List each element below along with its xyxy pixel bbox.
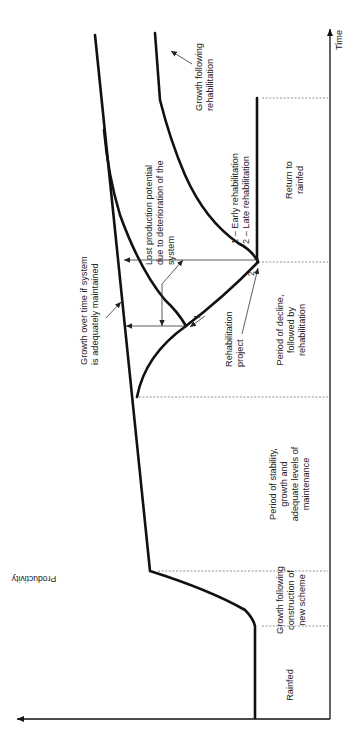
svg-text:due to deterioration of the: due to deterioration of the	[155, 160, 165, 265]
svg-text:rainfed: rainfed	[295, 166, 305, 194]
svg-text:project: project	[235, 339, 245, 367]
svg-text:rehabilitation: rehabilitation	[205, 59, 215, 111]
growth-rehab-annotation: Growth following rehabilitation	[194, 43, 215, 111]
svg-text:2 – Late rehabilitation: 2 – Late rehabilitation	[241, 156, 251, 244]
maintained-growth-pointer	[106, 302, 121, 318]
svg-text:new scheme: new scheme	[297, 574, 307, 626]
phase-label-rainfed: Rainfed	[285, 669, 295, 701]
svg-text:adequate levels of: adequate levels of	[290, 446, 300, 521]
time-axis-label: Time	[334, 30, 344, 50]
svg-text:growth and: growth and	[279, 461, 289, 506]
svg-text:Rehabilitation: Rehabilitation	[224, 311, 234, 367]
svg-text:Period of decline,: Period of decline,	[275, 295, 285, 366]
maintained-growth-curve	[95, 35, 255, 718]
lost-production-annotation: Lost production potential due to deterio…	[144, 160, 176, 265]
svg-text:Rainfed: Rainfed	[285, 669, 295, 701]
rehab-project-pointer-2	[242, 268, 258, 334]
svg-text:maintenance: maintenance	[301, 458, 311, 511]
svg-text:Growth following: Growth following	[194, 43, 204, 111]
productivity-axis-label: Productivity	[11, 574, 56, 584]
rehab-project-annotation: Rehabilitation project	[224, 311, 245, 367]
phase-label-stability: Period of stability, growth and adequate…	[268, 446, 311, 521]
decline-curve	[137, 262, 258, 397]
phase-label-growth-construction: Growth following construction of new sch…	[275, 566, 307, 634]
phase-label-decline: Period of decline, followed by rehabilit…	[275, 295, 307, 366]
svg-text:construction of: construction of	[286, 570, 296, 630]
productivity-over-time-diagram: Time Productivity 1 2 Growth over time i…	[0, 0, 359, 754]
phase-label-return-rainfed: Return to rainfed	[284, 161, 305, 199]
svg-text:Lost production potential: Lost production potential	[144, 165, 154, 265]
svg-text:Growth over time if system: Growth over time if system	[79, 256, 89, 365]
svg-text:Return to: Return to	[284, 161, 294, 199]
svg-text:system: system	[166, 236, 176, 265]
svg-text:rehabilitation: rehabilitation	[297, 304, 307, 356]
maintained-growth-annotation: Growth over time if system is adequately…	[79, 256, 100, 365]
svg-text:is adequately maintained: is adequately maintained	[90, 263, 100, 365]
growth-rehab-pointer	[171, 51, 192, 64]
svg-text:followed by: followed by	[286, 307, 296, 353]
svg-text:Period of stability,: Period of stability,	[268, 448, 278, 520]
svg-text:Growth following: Growth following	[275, 566, 285, 634]
return-to-rainfed-curve	[257, 98, 258, 262]
point-1-label: 1	[192, 314, 202, 319]
svg-text:1 – Early rehabilitation: 1 – Early rehabilitation	[230, 153, 240, 244]
point-2-label: 2	[246, 271, 256, 276]
rehab-legend: 1 – Early rehabilitation 2 – Late rehabi…	[230, 153, 251, 244]
